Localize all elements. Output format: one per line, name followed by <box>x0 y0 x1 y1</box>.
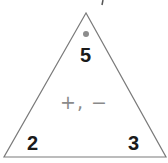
fact-triangle-diagram: 5 +, − 2 3 <box>0 0 168 163</box>
top-number: 5 <box>80 45 91 65</box>
cover-dot-icon <box>83 31 89 37</box>
bottom-left-number: 2 <box>27 133 38 153</box>
cropped-glyph <box>102 0 103 5</box>
bottom-right-number: 3 <box>128 133 139 153</box>
operations-label: +, − <box>60 92 108 112</box>
triangle-outline <box>0 0 168 163</box>
